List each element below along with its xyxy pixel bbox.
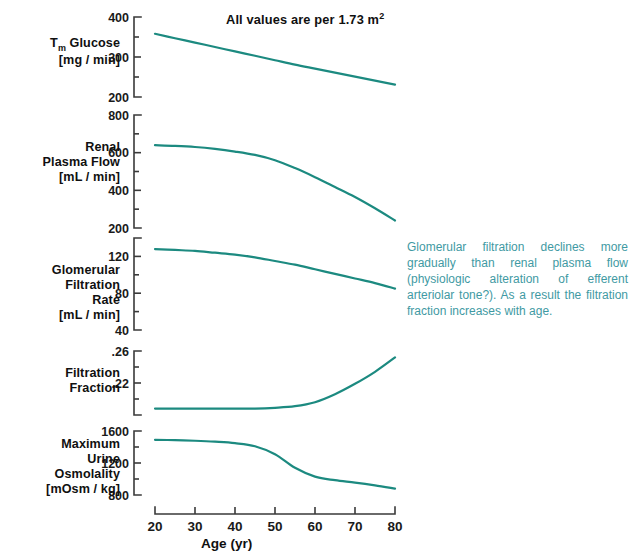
x-tick-label: 80 — [387, 519, 402, 534]
x-axis-title: Age (yr) — [201, 536, 252, 551]
x-tick-label: 20 — [147, 519, 162, 534]
panel-label-gfr: GlomerularFiltrationRate[mL / min] — [4, 263, 120, 322]
panel-label-tm-glucose: Tm Glucose[mg / min] — [4, 36, 120, 68]
annotation-text: Glomerular filtration declines more grad… — [407, 240, 628, 320]
y-tick-label-tm-glucose: 400 — [108, 11, 129, 25]
curve-filtration-fraction — [155, 357, 395, 408]
y-tick-label-renal-plasma-flow: 800 — [108, 109, 129, 123]
chart-title-text: All values are per 1.73 m — [226, 12, 379, 27]
y-tick-label-filtration-fraction: .26 — [112, 345, 129, 359]
x-tick-label: 50 — [267, 519, 282, 534]
y-axis-spine-gfr — [134, 238, 141, 330]
y-tick-label-gfr: 120 — [108, 250, 129, 264]
x-tick-label: 40 — [227, 519, 242, 534]
panel-filtration-fraction: .26.22 — [112, 345, 395, 416]
panel-max-urine-osmolality: 16001200800 — [101, 425, 395, 503]
y-tick-label-renal-plasma-flow: 200 — [108, 222, 129, 236]
x-tick-label: 30 — [187, 519, 202, 534]
curve-max-urine-osmolality — [155, 440, 395, 489]
x-tick-label: 70 — [347, 519, 362, 534]
y-tick-label-tm-glucose: 200 — [108, 91, 129, 105]
curve-renal-plasma-flow — [155, 145, 395, 220]
curve-tm-glucose — [155, 34, 395, 85]
panel-label-max-urine-osmolality: MaximumUrineOsmolality[mOsm / kg] — [4, 437, 120, 496]
x-axis: 20304050607080 — [147, 507, 402, 534]
panel-label-filtration-fraction: FiltrationFraction — [4, 366, 120, 396]
x-tick-label: 60 — [307, 519, 322, 534]
chart-title: All values are per 1.73 m2 — [226, 11, 384, 27]
y-tick-label-gfr: 40 — [115, 324, 129, 338]
panel-label-renal-plasma-flow: RenalPlasma Flow[mL / min] — [4, 140, 120, 185]
panel-gfr: 1208040 — [108, 238, 395, 338]
y-tick-label-renal-plasma-flow: 400 — [108, 184, 129, 198]
panel-renal-plasma-flow: 800600400200 — [108, 109, 395, 236]
renal-function-vs-age-figure: All values are per 1.73 m2 Tm Glucose[mg… — [0, 0, 635, 559]
chart-title-superscript: 2 — [379, 11, 384, 21]
curve-gfr — [155, 249, 395, 289]
